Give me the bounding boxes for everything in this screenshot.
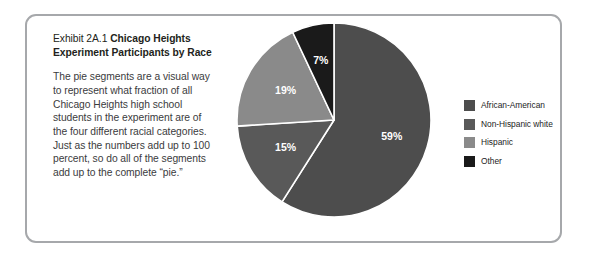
exhibit-description: The pie segments are a visual way to rep…: [53, 70, 215, 180]
legend-color-swatch: [464, 100, 475, 111]
pie-slice-label: 59%: [381, 130, 403, 142]
pie-slice-group: [237, 23, 431, 217]
legend-item-label: Hispanic: [481, 137, 513, 148]
pie-slice-label: 7%: [313, 54, 329, 66]
exhibit-panel: Exhibit 2A.1 Chicago Heights Experiment …: [25, 14, 562, 243]
legend-color-swatch: [464, 119, 475, 130]
chart-legend: African-AmericanNon-Hispanic whiteHispan…: [464, 100, 553, 167]
legend-item-label: Other: [481, 156, 502, 167]
legend-item: Hispanic: [464, 137, 553, 148]
legend-item: Other: [464, 156, 553, 167]
pie-chart: 59%15%19%7%: [234, 20, 434, 220]
exhibit-text-column: Exhibit 2A.1 Chicago Heights Experiment …: [53, 32, 215, 180]
legend-color-swatch: [464, 137, 475, 148]
exhibit-title: Exhibit 2A.1 Chicago Heights Experiment …: [53, 32, 215, 59]
chart-area: 59%15%19%7% African-AmericanNon-Hispanic…: [232, 16, 564, 245]
pie-slice-label: 19%: [275, 84, 297, 96]
legend-color-swatch: [464, 156, 475, 167]
legend-item: Non-Hispanic white: [464, 119, 553, 130]
legend-item: African-American: [464, 100, 553, 111]
pie-slice-label: 15%: [275, 141, 297, 153]
legend-item-label: African-American: [481, 100, 545, 111]
legend-item-label: Non-Hispanic white: [481, 119, 553, 130]
exhibit-number: Exhibit 2A.1: [53, 33, 107, 44]
pie-chart-svg: 59%15%19%7%: [234, 20, 434, 220]
